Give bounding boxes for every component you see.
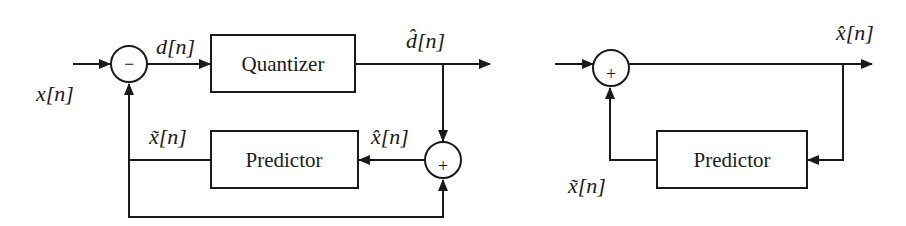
quantizer-label: Quantizer [242, 52, 325, 76]
prediction-label: x̃[n] [148, 124, 187, 149]
reconstructed-label: x̂[n] [370, 124, 409, 149]
decoder-predictor-label: Predictor [694, 148, 771, 172]
input-label: x[n] [35, 81, 74, 106]
adder-sign: + [438, 156, 448, 176]
subtractor-sign: − [124, 54, 134, 74]
decoder-prediction-label: x̃[n] [567, 173, 606, 198]
decoder-prediction-to-adder [610, 88, 657, 160]
predictor-label: Predictor [246, 148, 323, 172]
decoder-output-label: x̂[n] [835, 20, 874, 45]
decoder-feedback-to-predictor [808, 64, 843, 160]
diff-label: d[n] [156, 34, 195, 59]
dpcm-diagram: − + Quantizer Predictor x[n] d[n] d̂[n] … [0, 0, 906, 226]
quantized-label: d̂[n] [406, 28, 445, 53]
decoder-adder-sign: + [606, 64, 616, 84]
